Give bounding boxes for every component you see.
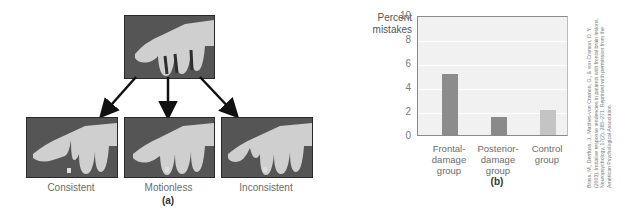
gridline-8 xyxy=(418,41,567,42)
y-tick-2: 2 xyxy=(395,106,411,117)
arrows xyxy=(0,0,330,130)
image-credit: Brass, M., Derrfuss, J., Matthes-von Cra… xyxy=(586,18,612,188)
hand-photo-inconsistent xyxy=(221,117,313,178)
y-tick-4: 4 xyxy=(395,82,411,93)
y-tick-0: 0 xyxy=(395,130,411,141)
hand-image xyxy=(222,118,312,177)
gridline-4 xyxy=(418,89,567,90)
hand-photo-consistent xyxy=(26,117,118,178)
bar-frontal-damage xyxy=(442,74,458,135)
y-tick-6: 6 xyxy=(395,58,411,69)
bar-posterior-damage xyxy=(491,117,507,135)
hand-photo-motionless xyxy=(124,117,215,178)
y-tick-10: 10 xyxy=(395,10,411,21)
hand-image xyxy=(125,118,214,177)
caption-inconsistent: Inconsistent xyxy=(221,182,311,193)
bar-control xyxy=(540,110,556,135)
gridline-6 xyxy=(418,65,567,66)
panel-label-b: (b) xyxy=(477,176,517,187)
arrow-to-consistent-icon xyxy=(104,77,136,113)
caption-motionless: Motionless xyxy=(124,182,213,193)
plot-area xyxy=(417,16,568,136)
hand-image xyxy=(27,118,117,177)
arrow-to-inconsistent-icon xyxy=(200,77,234,113)
x-label-control: Control group xyxy=(517,143,577,165)
caption-consistent: Consistent xyxy=(26,182,116,193)
panel-label-a: (a) xyxy=(148,195,188,206)
y-tick-8: 8 xyxy=(395,34,411,45)
